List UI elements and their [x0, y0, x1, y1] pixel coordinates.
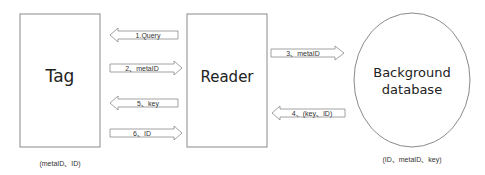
- svg-text:5、key: 5、key: [137, 100, 159, 108]
- svg-text:2、metaID: 2、metaID: [125, 65, 158, 72]
- svg-text:4、(key、ID): 4、(key、ID): [292, 110, 332, 118]
- arrow-6-id: 6、ID: [110, 126, 182, 140]
- arrow-2-metaid: 2、metaID: [110, 61, 182, 75]
- arrow-4-key-id: 4、(key、ID): [272, 106, 345, 120]
- svg-text:1.Query: 1.Query: [136, 32, 161, 40]
- tag-label: Tag: [45, 66, 75, 86]
- arrow-5-key: 5、key: [110, 96, 178, 110]
- reader-node: Reader: [187, 14, 267, 147]
- database-label-line1: Background: [373, 65, 451, 80]
- svg-text:3、metaID: 3、metaID: [286, 50, 319, 57]
- arrow-3-metaid: 3、metaID: [271, 46, 344, 60]
- reader-label: Reader: [200, 68, 254, 86]
- database-label-line2: database: [382, 82, 442, 97]
- tag-caption: (metaID、ID): [39, 160, 80, 168]
- tag-node: Tag: [20, 14, 100, 147]
- database-node: Background database: [354, 13, 470, 147]
- svg-text:6、ID: 6、ID: [133, 130, 151, 137]
- database-caption: (ID、metaID、key): [382, 156, 441, 164]
- arrow-1-query: 1.Query: [110, 28, 178, 42]
